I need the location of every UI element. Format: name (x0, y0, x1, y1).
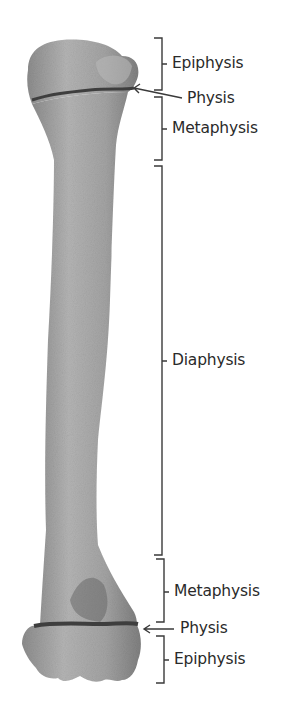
bracket-diaphysis (154, 166, 167, 555)
bracket-epiphysis-bottom (156, 636, 169, 683)
label-metaphysis-bottom: Metaphysis (174, 582, 260, 600)
bracket-metaphysis-bottom (156, 559, 169, 622)
label-epiphysis-bottom: Epiphysis (174, 650, 245, 668)
bone-diagram (0, 0, 305, 716)
distal-epiphysis (22, 623, 141, 682)
bracket-epiphysis-top (154, 38, 167, 90)
physis-arrow-bottom (144, 625, 174, 633)
physis-arrow-top (134, 84, 182, 98)
label-physis-bottom: Physis (180, 619, 228, 637)
label-diaphysis: Diaphysis (172, 351, 245, 369)
label-physis-top: Physis (187, 89, 235, 107)
label-epiphysis-top: Epiphysis (172, 54, 243, 72)
label-metaphysis-top: Metaphysis (172, 119, 258, 137)
bracket-metaphysis-top (154, 97, 167, 160)
diaphysis-shape (32, 92, 137, 625)
